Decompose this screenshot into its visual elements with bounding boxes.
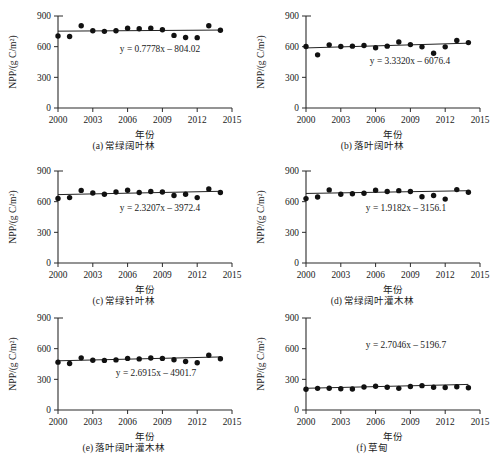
data-point [206, 353, 211, 358]
x-tick-label-e-2015: 2015 [223, 417, 242, 427]
data-point [206, 186, 211, 191]
x-tick-label-d-2015: 2015 [471, 270, 490, 280]
data-point [171, 33, 176, 38]
data-point [315, 194, 320, 199]
data-point [385, 189, 390, 194]
plot-area-d: 0300600900200020032006200920122015y = 1.… [248, 155, 496, 305]
data-point [218, 190, 223, 195]
data-point [171, 193, 176, 198]
regression-equation-e: y = 2.6915x – 4901.7 [116, 368, 197, 378]
plot-area-f: 0300600900200020032006200920122015y = 2.… [248, 302, 496, 452]
x-tick-label-e-2000: 2000 [49, 417, 68, 427]
panel-d: 0300600900200020032006200920122015y = 1.… [248, 155, 497, 302]
data-point [315, 52, 320, 57]
data-point [443, 196, 448, 201]
data-point [160, 189, 165, 194]
x-tick-label-a-2012: 2012 [188, 115, 207, 125]
data-point [327, 42, 332, 47]
x-tick-label-c-2000: 2000 [49, 270, 68, 280]
x-tick-label-f-2000: 2000 [297, 417, 316, 427]
data-point [396, 386, 401, 391]
data-point [350, 191, 355, 196]
x-tick-label-e-2003: 2003 [83, 417, 102, 427]
data-point [171, 357, 176, 362]
x-tick-label-c-2015: 2015 [223, 270, 242, 280]
y-tick-label-b-600: 600 [285, 42, 299, 52]
plot-area-e: 0300600900200020032006200920122015y = 2.… [0, 302, 248, 452]
y-axis-title-d: NPP/(g C/m²) [255, 190, 267, 243]
y-tick-label-e-300: 300 [37, 375, 51, 385]
data-point [90, 358, 95, 363]
x-tick-label-c-2003: 2003 [83, 270, 102, 280]
data-point [137, 356, 142, 361]
regression-equation-d: y = 1.9182x – 3156.1 [366, 203, 447, 213]
data-point [55, 359, 60, 364]
x-tick-label-c-2009: 2009 [153, 270, 172, 280]
regression-equation-a: y = 0.7778x – 804.02 [120, 44, 201, 54]
plot-area-b: 0300600900200020032006200920122015y = 3.… [248, 0, 496, 150]
y-tick-label-d-600: 600 [285, 197, 299, 207]
data-point [218, 28, 223, 33]
x-tick-label-f-2015: 2015 [471, 417, 490, 427]
regression-equation-f: y = 2.7046x – 5196.7 [366, 340, 447, 350]
data-point [206, 23, 211, 28]
data-point [327, 187, 332, 192]
data-point [327, 386, 332, 391]
data-point [408, 42, 413, 47]
data-point [338, 192, 343, 197]
data-point [218, 356, 223, 361]
panel-f: 0300600900200020032006200920122015y = 2.… [248, 302, 497, 463]
data-point [466, 40, 471, 45]
panel-b: 0300600900200020032006200920122015y = 3.… [248, 0, 497, 155]
y-tick-label-a-900: 900 [37, 11, 51, 21]
data-point [67, 34, 72, 39]
x-tick-label-b-2006: 2006 [366, 115, 385, 125]
y-axis-title-e: NPP/(g C/m²) [7, 337, 19, 390]
data-point [303, 44, 308, 49]
panel-e: 0300600900200020032006200920122015y = 2.… [0, 302, 248, 463]
data-point [443, 385, 448, 390]
x-tick-label-b-2003: 2003 [331, 115, 350, 125]
x-tick-label-e-2009: 2009 [153, 417, 172, 427]
data-point [102, 192, 107, 197]
data-point [160, 356, 165, 361]
data-point [67, 195, 72, 200]
y-tick-label-b-0: 0 [294, 103, 299, 113]
y-axis-title-b: NPP/(g C/m²) [255, 35, 267, 88]
data-point [195, 360, 200, 365]
data-point [466, 385, 471, 390]
x-tick-label-b-2015: 2015 [471, 115, 490, 125]
y-tick-label-e-600: 600 [37, 344, 51, 354]
panel-caption-b: (b) 落叶阔叶林 [248, 138, 497, 152]
regression-equation-b: y = 3.3320x – 6076.4 [370, 56, 451, 66]
data-point [338, 44, 343, 49]
x-tick-label-c-2006: 2006 [118, 270, 137, 280]
data-point [90, 28, 95, 33]
data-point [419, 44, 424, 49]
data-point [350, 386, 355, 391]
data-point [79, 355, 84, 360]
data-point [183, 192, 188, 197]
data-point [67, 361, 72, 366]
data-point [113, 357, 118, 362]
data-point [113, 189, 118, 194]
panel-caption-a: (a) 常绿阔叶林 [0, 138, 248, 152]
data-point [125, 26, 130, 31]
y-tick-label-f-0: 0 [294, 405, 299, 415]
y-axis-title-c: NPP/(g C/m²) [7, 190, 19, 243]
y-axis-title-a: NPP/(g C/m²) [7, 35, 19, 88]
data-point [195, 35, 200, 40]
data-point [183, 359, 188, 364]
panel-caption-f: (f) 草甸 [248, 440, 497, 454]
data-point [148, 355, 153, 360]
x-tick-label-d-2009: 2009 [401, 270, 420, 280]
data-point [137, 190, 142, 195]
plot-area-c: 0300600900200020032006200920122015y = 2.… [0, 155, 248, 305]
data-point [137, 26, 142, 31]
x-tick-label-d-2006: 2006 [366, 270, 385, 280]
panel-c: 0300600900200020032006200920122015y = 2.… [0, 155, 248, 302]
data-point [160, 27, 165, 32]
data-point [431, 193, 436, 198]
data-point [361, 43, 366, 48]
data-point [454, 187, 459, 192]
